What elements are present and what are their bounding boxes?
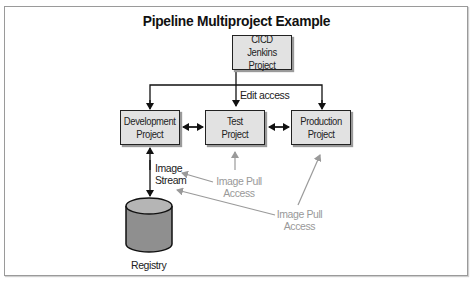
- test-project-node: Test Project: [205, 110, 265, 145]
- development-label: Development Project: [124, 115, 176, 141]
- cicd-jenkins-project-node: CICD Jenkins Project: [232, 35, 292, 70]
- pull-arrow-test-to-stream: [182, 173, 213, 182]
- production-project-node: Production Project: [291, 110, 351, 145]
- image-pull-access-prod-label: Image Pull Access: [272, 208, 327, 232]
- production-label: Production Project: [300, 115, 342, 141]
- cicd-label: CICD Jenkins Project: [236, 33, 288, 72]
- test-label: Test Project: [222, 115, 249, 141]
- image-stream-label: Image Stream: [155, 162, 186, 186]
- registry-label: Registry: [131, 259, 166, 271]
- registry-cylinder-icon: [126, 198, 172, 252]
- pull-arrow-prod: [298, 155, 320, 205]
- development-project-node: Development Project: [120, 110, 180, 145]
- edit-access-label: Edit access: [240, 89, 289, 101]
- image-pull-access-test-label: Image Pull Access: [214, 175, 264, 199]
